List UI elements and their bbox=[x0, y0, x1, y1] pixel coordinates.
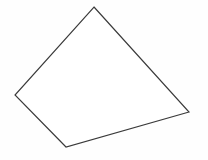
quadrilateral-outline bbox=[15, 7, 189, 147]
shape-canvas-svg bbox=[0, 0, 208, 160]
line-drawing-canvas bbox=[0, 0, 208, 160]
